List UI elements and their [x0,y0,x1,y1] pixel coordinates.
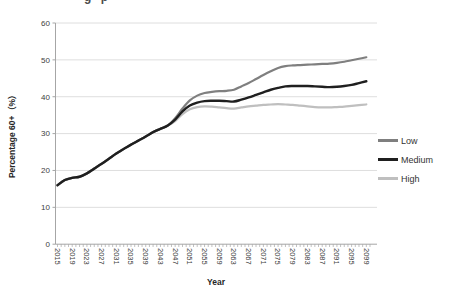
x-tick-label: 2031 [112,248,121,265]
x-tick-label: 2095 [347,248,356,265]
x-tick-label: 2043 [156,248,165,265]
y-tick-label: 30 [41,129,50,138]
legend-item-medium: Medium [378,150,433,169]
x-tick-label: 2019 [68,248,77,265]
series-line-high [58,104,367,185]
x-tick-label: 2035 [126,248,135,265]
y-tick-label: 20 [41,166,50,175]
legend-label-low: Low [401,136,418,146]
legend: Low Medium High [378,131,433,188]
x-tick-label: 2023 [82,248,91,265]
y-tick-label: 0 [46,240,51,249]
x-tick-label: 2079 [288,248,297,265]
y-tick-label: 60 [41,19,50,28]
x-tick-label: 2039 [141,248,150,265]
x-tick-label: 2099 [362,248,371,265]
legend-label-high: High [401,174,420,184]
legend-swatch-high [378,177,398,179]
y-tick-label: 40 [41,93,50,102]
y-axis-title: Percentage 60+（%） [0,23,22,244]
x-tick-label: 2047 [171,248,180,265]
x-tick-label: 2087 [318,248,327,265]
x-tick-label: 2059 [215,248,224,265]
x-tick-label: 2027 [97,248,106,265]
x-tick-label: 2051 [185,248,194,265]
x-tick-label: 2075 [273,248,282,265]
x-tick-label: 2071 [259,248,268,265]
x-axis-title: Year [55,277,377,287]
x-tick-label: 2083 [303,248,312,265]
chart-figure: g p 010203040506020152019202320272031203… [0,0,452,299]
legend-item-low: Low [378,131,433,150]
x-tick-label: 2091 [332,248,341,265]
series-line-low [58,57,367,185]
x-tick-label: 2055 [200,248,209,265]
legend-item-high: High [378,169,433,188]
x-tick-label: 2015 [53,248,62,265]
y-tick-label: 50 [41,56,50,65]
legend-label-medium: Medium [401,155,433,165]
x-tick-label: 2067 [244,248,253,265]
y-tick-label: 10 [41,203,50,212]
legend-swatch-low [378,139,398,141]
legend-swatch-medium [378,158,398,160]
x-tick-label: 2063 [229,248,238,265]
